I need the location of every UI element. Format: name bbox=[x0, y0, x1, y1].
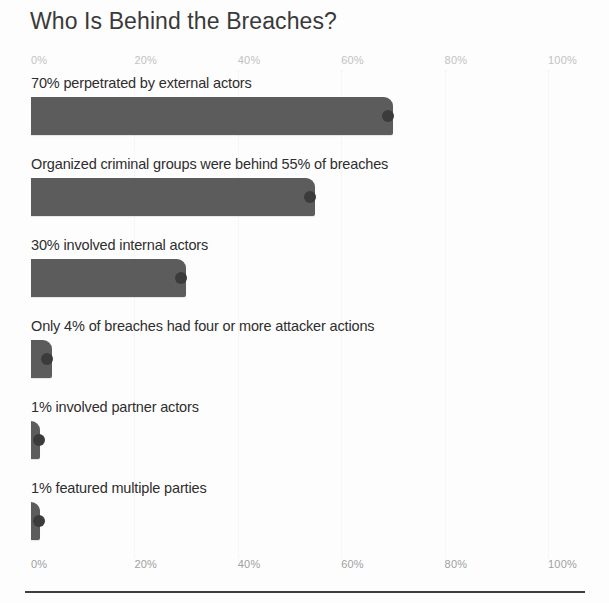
tick-label-top-0: 0% bbox=[31, 54, 47, 66]
tick-label-bottom-20: 20% bbox=[134, 558, 157, 570]
bar-track bbox=[31, 340, 548, 378]
bar-end-marker-dot bbox=[33, 515, 45, 527]
tick-label-top-60: 60% bbox=[341, 54, 364, 66]
bar-track bbox=[31, 97, 548, 135]
bar-end-marker-dot bbox=[382, 110, 394, 122]
bar-track bbox=[31, 178, 548, 216]
tick-label-bottom-100: 100% bbox=[548, 558, 577, 570]
tick-label-bottom-0: 0% bbox=[31, 558, 47, 570]
gridline-40 bbox=[238, 70, 240, 558]
bar-track bbox=[31, 259, 548, 297]
tick-label-top-80: 80% bbox=[445, 54, 468, 66]
bar-track bbox=[31, 421, 548, 459]
bar-label: 1% featured multiple parties bbox=[31, 480, 207, 496]
tick-label-top-100: 100% bbox=[548, 54, 577, 66]
tick-label-bottom-80: 80% bbox=[445, 558, 468, 570]
tick-label-bottom-40: 40% bbox=[238, 558, 261, 570]
x-axis-top: 0%20%40%60%80%100% bbox=[0, 54, 609, 68]
tick-label-top-20: 20% bbox=[134, 54, 157, 66]
bar-label: 30% involved internal actors bbox=[31, 237, 208, 253]
bar-label: Only 4% of breaches had four or more att… bbox=[31, 318, 374, 334]
bottom-divider bbox=[25, 591, 585, 593]
bar-end-marker-dot bbox=[41, 353, 53, 365]
gridline-60 bbox=[341, 70, 343, 558]
bar-end-marker-dot bbox=[175, 272, 187, 284]
bar-track bbox=[31, 502, 548, 540]
tick-label-top-40: 40% bbox=[238, 54, 261, 66]
x-axis-bottom: 0%20%40%60%80%100% bbox=[0, 558, 609, 572]
gridline-80 bbox=[445, 70, 447, 558]
bar-fill[interactable] bbox=[31, 178, 315, 216]
chart-page: Who Is Behind the Breaches? 0%20%40%60%8… bbox=[0, 0, 609, 603]
plot-area: 0%20%40%60%80%100% 0%20%40%60%80%100% 70… bbox=[0, 0, 609, 603]
gridline-100 bbox=[548, 70, 550, 558]
bar-end-marker-dot bbox=[33, 434, 45, 446]
bar-fill[interactable] bbox=[31, 97, 393, 135]
tick-label-bottom-60: 60% bbox=[341, 558, 364, 570]
bar-fill[interactable] bbox=[31, 259, 186, 297]
bar-label: 1% involved partner actors bbox=[31, 399, 199, 415]
bar-label: 70% perpetrated by external actors bbox=[31, 75, 252, 91]
bar-label: Organized criminal groups were behind 55… bbox=[31, 156, 388, 172]
